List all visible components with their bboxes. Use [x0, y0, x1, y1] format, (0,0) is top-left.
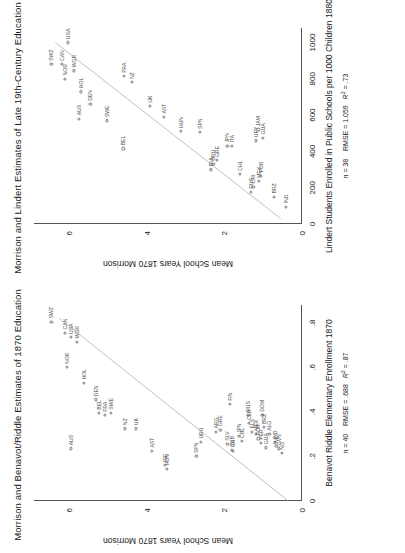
data-point-label: CUB [229, 436, 235, 447]
data-point-label: FRA [102, 402, 108, 412]
data-point-label: ITA [229, 135, 235, 142]
y-tick-label: 4 [142, 231, 151, 235]
data-point-label: HUN [178, 117, 184, 128]
panel-right-x-axis-title: Lindert Students Enrolled in Public Scho… [324, 0, 334, 253]
x-tick-label: 200 [308, 181, 317, 194]
y-tick-label: 2 [220, 508, 229, 512]
x-tick-label: 600 [308, 108, 317, 121]
data-point-label: CHL [237, 161, 243, 171]
panel-left-x-axis-title: Benavot Riddle Elementary Enrollment 187… [324, 319, 334, 486]
data-point-label: AUS [68, 435, 74, 445]
panel-right-title: Morrison and Lindert Estimates of Late 1… [12, 0, 23, 276]
panel-right-y-axis-title: Mean School Years 1870 Morrison [103, 259, 233, 269]
data-point-label: HOL [78, 78, 84, 88]
data-point-label: CAN [59, 50, 65, 61]
x-tick-label: 800 [308, 72, 317, 85]
data-point-label: UK [147, 96, 153, 103]
data-point-label: AUS [76, 105, 82, 115]
figure-page: Morrison and Benavot/Riddle Estimates of… [0, 0, 405, 553]
x-tick-label: 0 [308, 222, 317, 226]
x-tick-label: 400 [308, 145, 317, 158]
data-point-label: WGR [74, 326, 80, 338]
panel-left-title: Morrison and Benavot/Riddle Estimates of… [12, 277, 23, 553]
data-point-label: NZ [122, 419, 128, 426]
data-point-label: FRA [121, 63, 127, 73]
data-point-label: SPN [193, 443, 199, 453]
panel-left-n: n = 40 [342, 434, 349, 454]
data-point-label: NOR [64, 353, 70, 364]
panel-left-rmse: RMSE = .688 [342, 384, 349, 426]
panel-right-n: n = 38 [342, 159, 349, 179]
data-point-label: IND [283, 195, 289, 204]
data-point-label: JAM [255, 116, 261, 126]
data-point-label: GRE [214, 146, 220, 157]
data-point-label: WGR [71, 55, 77, 67]
data-point-label: SWE [104, 106, 110, 118]
x-tick-label: .4 [308, 409, 317, 416]
panel-right-axes: Mean School Years 1870 Morrison Lindert … [34, 28, 302, 224]
x-tick-label: .6 [308, 364, 317, 371]
figure-stage: Morrison and Benavot/Riddle Estimates of… [0, 0, 405, 553]
data-point-label: SWZ [48, 307, 54, 318]
panel-left-axes: Mean School Years 1870 Morrison Benavot … [34, 305, 302, 501]
data-point-label: SWE [108, 398, 114, 410]
data-point-label: URU [198, 428, 204, 439]
data-point-label: AST [161, 104, 167, 114]
panel-left-r2: R2 = .87 [342, 353, 349, 379]
y-tick-label: 6 [64, 508, 73, 512]
data-point-label: DEN [93, 386, 99, 397]
data-point-label: NOR [62, 64, 68, 75]
data-point-label: POR [258, 162, 264, 173]
x-tick-label: 0 [308, 499, 317, 503]
data-point-label: USA [65, 29, 71, 39]
data-point-label: FIN [227, 393, 233, 401]
data-point-label: BEL [120, 136, 126, 146]
panel-left-y-axis-title: Mean School Years 1870 Morrison [103, 536, 233, 546]
data-point-label: DOM [259, 400, 265, 412]
data-point-label: BRZ [271, 183, 277, 193]
chart-panel-right: Morrison and Lindert Estimates of Late 1… [0, 0, 405, 276]
data-point-label: AST [149, 438, 155, 448]
panel-right-stats: n = 38 RMSE = 1.059 R2 = .73 [340, 74, 349, 179]
x-tick-label: .2 [308, 453, 317, 460]
data-point-label: SPN [197, 119, 203, 129]
data-point-label: UK [133, 418, 139, 425]
data-point-label: HUN [164, 454, 170, 465]
data-point-label: HOL [81, 369, 87, 379]
data-point-label: CHL [239, 428, 245, 438]
data-point-label: NG [279, 442, 285, 450]
y-tick-label: 0 [298, 231, 307, 235]
y-tick-label: 6 [64, 231, 73, 235]
panel-right-rmse: RMSE = 1.059 [342, 105, 349, 151]
data-point-label: SWZ [48, 50, 54, 61]
panel-left-stats: n = 40 RMSE = .688 R2 = .87 [340, 353, 349, 454]
data-point-label: GRE [217, 415, 223, 426]
panel-right-r2: R2 = .73 [342, 74, 349, 100]
y-tick-label: 0 [298, 508, 307, 512]
data-point-label: GUA [263, 433, 269, 444]
y-tick-label: 2 [220, 231, 229, 235]
x-tick-label: .8 [308, 319, 317, 326]
data-point-label: NZ [129, 72, 135, 79]
x-tick-label: 1000 [308, 34, 317, 52]
chart-panel-left: Morrison and Benavot/Riddle Estimates of… [0, 277, 405, 553]
y-tick-label: 4 [142, 508, 151, 512]
data-point-label: DEN [87, 90, 93, 101]
